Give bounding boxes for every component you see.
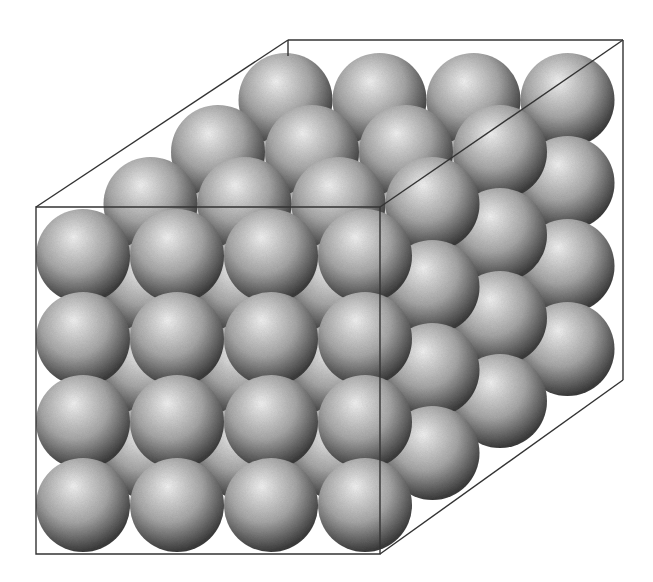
sphere	[36, 209, 130, 303]
sphere	[224, 458, 318, 552]
sphere	[36, 458, 130, 552]
sphere	[224, 292, 318, 386]
sphere-packing-diagram	[0, 0, 653, 582]
sphere	[130, 458, 224, 552]
sphere	[318, 458, 412, 552]
sphere	[130, 292, 224, 386]
sphere-lattice	[36, 53, 615, 552]
sphere	[224, 375, 318, 469]
sphere	[318, 209, 412, 303]
sphere	[130, 375, 224, 469]
sphere	[318, 375, 412, 469]
sphere	[36, 375, 130, 469]
sphere	[224, 209, 318, 303]
sphere	[36, 292, 130, 386]
sphere	[130, 209, 224, 303]
sphere	[318, 292, 412, 386]
